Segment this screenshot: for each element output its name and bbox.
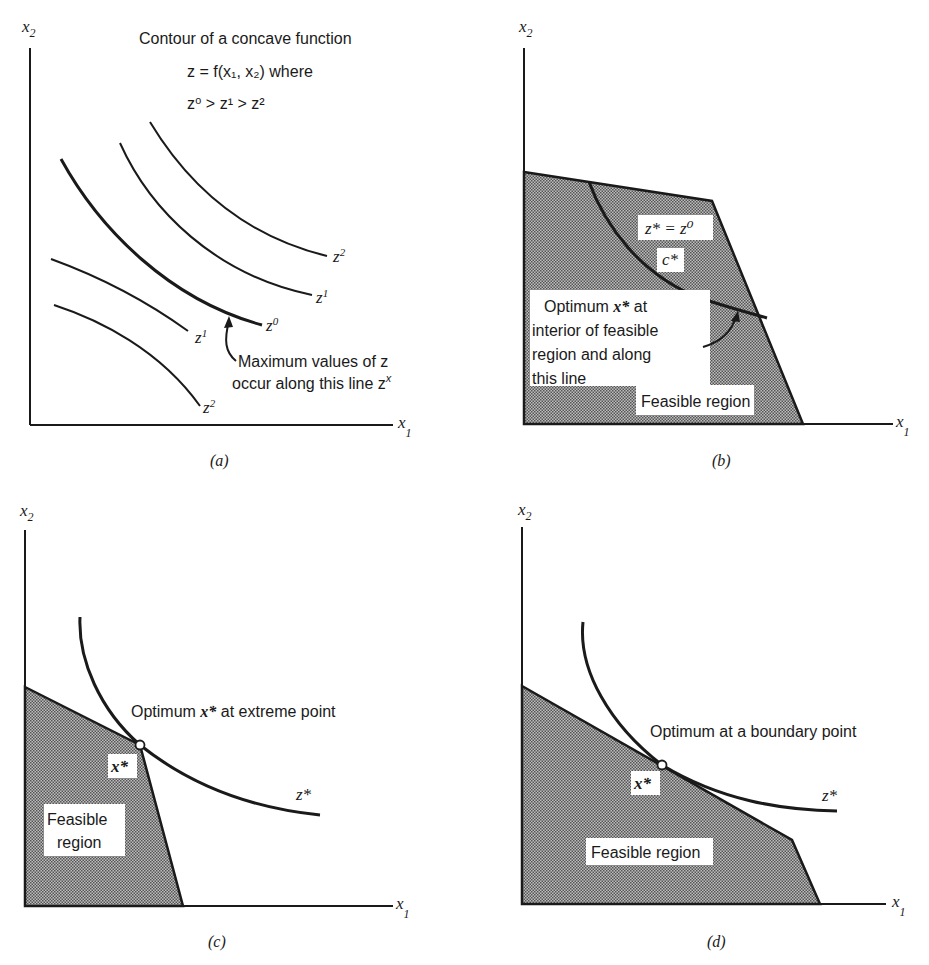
label-z1-lower: z1: [194, 327, 207, 347]
x-axis-label: x1: [895, 412, 910, 439]
curve-label-z-star: z*: [821, 786, 838, 805]
panel-b: x2 x1 z* = z⁰ c* Optimum x* at interior …: [518, 17, 910, 470]
title-line3: z⁰ > z¹ > z²: [187, 95, 265, 112]
contour-z0-max: [61, 159, 262, 325]
x-axis-label: x1: [397, 413, 412, 440]
label-z2-upper: z2: [332, 246, 346, 266]
y-axis-label: x2: [517, 500, 532, 523]
caption-d: (d): [707, 933, 726, 951]
annotation-line4: this line: [532, 370, 586, 387]
contour-z1-lower: [51, 259, 188, 331]
caption-a: (a): [210, 452, 229, 470]
caption-c: (c): [208, 933, 226, 951]
annotation: Optimum at a boundary point: [650, 723, 857, 740]
annotation-line1: Optimum x* at: [544, 298, 648, 315]
point-label-x-star: x*: [110, 757, 129, 776]
optimum-point: [658, 761, 667, 770]
curve-name-c-star: c*: [662, 250, 679, 269]
title-line1: Contour of a concave function: [139, 30, 352, 47]
annotation: Optimum x* at extreme point: [131, 703, 336, 720]
contour-z1-upper: [120, 143, 312, 295]
y-axis-label: x2: [21, 17, 36, 40]
optimum-point: [136, 741, 145, 750]
caption-b: (b): [712, 452, 731, 470]
panel-a: x2 x1 Contour of a concave function z = …: [21, 17, 412, 470]
annotation-line2: interior of feasible: [532, 322, 658, 339]
curve-label-z-star: z* = z⁰: [644, 219, 694, 238]
region-label: Feasible region: [641, 393, 750, 410]
region-label-line2: region: [57, 834, 101, 851]
region-label-line1: Feasible: [47, 811, 108, 828]
label-z0: z0: [265, 315, 279, 335]
annotation-line2: occur along this line zx: [232, 372, 392, 392]
y-axis-label: x2: [518, 17, 533, 40]
x-axis-label: x1: [395, 894, 410, 921]
arrow-head-icon: [224, 316, 233, 328]
panel-c: x2 x1 Optimum x* at extreme point x* z* …: [19, 501, 410, 951]
panel-d: x2 x1 Optimum at a boundary point x* z* …: [517, 500, 906, 951]
label-z2-lower: z2: [202, 397, 216, 417]
label-z1-upper: z1: [315, 287, 328, 307]
annotation-line3: region and along: [532, 346, 651, 363]
region-label: Feasible region: [591, 844, 700, 861]
curve-label-z-star: z*: [295, 785, 312, 804]
contour-z2-upper: [150, 122, 327, 256]
point-label-x-star: x*: [633, 774, 652, 793]
feasible-region: [522, 686, 820, 904]
annotation-line1: Maximum values of z: [238, 353, 388, 370]
contour-z2-lower: [54, 305, 200, 406]
figure-canvas: x2 x1 Contour of a concave function z = …: [0, 0, 929, 965]
x-axis-label: x1: [891, 892, 906, 919]
title-line2: z = f(x₁, x₂) where: [187, 63, 313, 80]
y-axis-label: x2: [19, 501, 34, 524]
